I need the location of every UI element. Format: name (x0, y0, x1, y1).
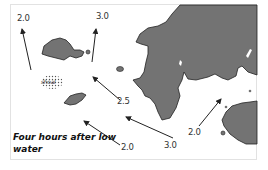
island-west (42, 38, 84, 60)
arrow-label-top-center: 3.0 (96, 11, 109, 21)
arrow-bottom-center (126, 117, 173, 138)
arrow-top-left (22, 29, 31, 70)
arrow-center (93, 77, 120, 100)
arrow-label-top-left: 2.0 (17, 13, 30, 23)
shoal-label: shoal (41, 78, 55, 85)
arrow-label-bottom-right: 2.0 (188, 127, 201, 137)
arrow-label-center: 2.5 (117, 96, 130, 106)
arrow-top-center (92, 29, 96, 62)
island-southeast (222, 101, 257, 144)
arrow-bottom-right (199, 99, 221, 126)
island-south (64, 93, 86, 105)
figure-caption: Four hours after low water (13, 131, 123, 155)
arrow-label-bottom-center: 3.0 (164, 140, 177, 150)
mainland (133, 5, 257, 120)
